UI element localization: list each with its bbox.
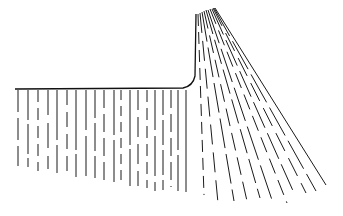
fan-line [206, 10, 260, 198]
diagram-canvas [0, 0, 343, 216]
diagram-svg [0, 0, 343, 216]
fan-lines [198, 8, 326, 203]
vertical-lines [18, 90, 186, 192]
fan-line [214, 8, 316, 191]
surface-outline [15, 14, 196, 89]
fan-line [210, 9, 287, 203]
fan-line [215, 8, 326, 185]
fan-line [213, 8, 306, 193]
